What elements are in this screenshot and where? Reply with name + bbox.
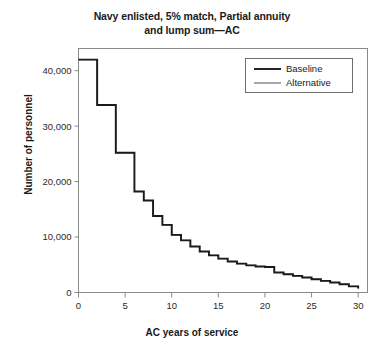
y-tick-label: 0 (66, 287, 71, 298)
x-tick-label: 15 (213, 300, 224, 311)
x-tick-label: 10 (166, 300, 177, 311)
x-tick-label: 25 (306, 300, 317, 311)
plot-area: 010,00020,00030,00040,000 051015202530 B… (0, 0, 384, 360)
chart-figure: Navy enlisted, 5% match, Partial annuity… (0, 0, 384, 360)
y-axis-ticks: 010,00020,00030,00040,000 (42, 65, 78, 298)
x-tick-label: 20 (260, 300, 271, 311)
series-line-baseline (79, 60, 359, 289)
x-tick-label: 0 (76, 300, 81, 311)
x-axis-ticks: 051015202530 (76, 293, 364, 311)
legend-label-baseline: Baseline (286, 63, 322, 74)
x-tick-label: 30 (353, 300, 364, 311)
y-tick-label: 40,000 (42, 65, 71, 76)
y-tick-label: 30,000 (42, 121, 71, 132)
data-series-layer (79, 60, 359, 289)
series-line-alternative (79, 60, 359, 289)
chart-legend: BaselineAlternative (246, 59, 353, 93)
y-tick-label: 10,000 (42, 231, 71, 242)
legend-label-alternative: Alternative (286, 77, 331, 88)
y-tick-label: 20,000 (42, 176, 71, 187)
x-tick-label: 5 (122, 300, 127, 311)
